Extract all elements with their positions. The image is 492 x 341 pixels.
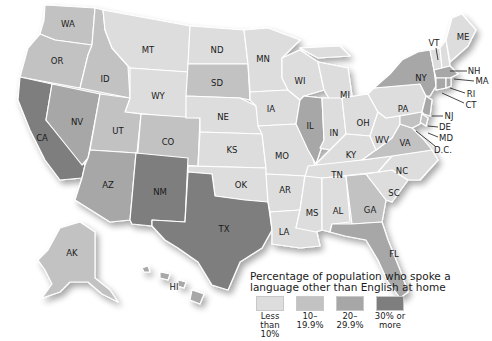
legend-label: 20– 29.9% (336, 312, 363, 330)
label-FL: FL (389, 249, 399, 259)
label-NH: NH (468, 66, 481, 76)
label-CT: CT (465, 100, 477, 110)
label-ID: ID (100, 74, 110, 84)
label-NJ: NJ (445, 111, 454, 121)
legend-swatch (336, 296, 364, 311)
label-LA: LA (279, 227, 290, 237)
legend-label: Less than 10% (250, 312, 290, 339)
label-WV: WV (375, 135, 389, 145)
legend-item-less-than-10: Less than 10% (250, 296, 290, 339)
label-CO: CO (162, 137, 175, 147)
label-KS: KS (227, 145, 238, 155)
label-NC: NC (396, 166, 408, 176)
label-OH: OH (356, 118, 369, 128)
label-GA: GA (364, 205, 377, 215)
state-CT (436, 78, 446, 90)
label-ME: ME (457, 32, 470, 42)
label-CA: CA (36, 133, 48, 143)
label-WY: WY (151, 91, 165, 101)
label-TX: TX (217, 224, 229, 234)
label-MS: MS (306, 208, 319, 218)
label-AL: AL (333, 206, 344, 216)
state-RI (446, 78, 451, 88)
label-VA: VA (399, 138, 410, 148)
label-TN: TN (330, 170, 343, 180)
label-NM: NM (153, 187, 167, 197)
label-SD: SD (211, 78, 223, 88)
legend-swatch (256, 296, 284, 311)
state-AK (38, 222, 118, 302)
leader-line-CT (442, 93, 464, 103)
label-OK: OK (235, 180, 248, 190)
leader-line-MD (428, 133, 438, 137)
label-WI: WI (295, 76, 306, 86)
label-NV: NV (71, 117, 83, 127)
legend-label: 30% or more (375, 312, 405, 330)
label-NY: NY (415, 73, 427, 83)
legend-swatch (376, 296, 404, 311)
label-AK: AK (66, 248, 78, 258)
label-MD: MD (439, 133, 453, 143)
legend-label: 10– 19.9% (296, 312, 323, 330)
legend-items: Less than 10% 10– 19.9% 20– 29.9% 30% or… (250, 296, 490, 339)
label-IL: IL (306, 121, 314, 131)
legend-item-30-plus: 30% or more (370, 296, 410, 339)
legend-item-20-29: 20– 29.9% (330, 296, 370, 339)
label-KY: KY (346, 150, 357, 160)
label-MA: MA (475, 76, 488, 86)
label-ND: ND (211, 45, 224, 55)
label-VT: VT (428, 38, 440, 48)
label-OR: OR (51, 56, 64, 66)
label-HI: HI (170, 282, 179, 292)
label-MI: MI (340, 90, 350, 100)
label-SC: SC (388, 188, 399, 198)
legend-swatch (296, 296, 324, 311)
label-AZ: AZ (102, 180, 114, 190)
label-WA: WA (61, 19, 75, 29)
label-MT: MT (142, 45, 155, 55)
label-PA: PA (398, 104, 409, 114)
leader-line-MA (454, 79, 474, 81)
leader-line-DE (428, 126, 438, 127)
legend-title: Percentage of population who spoke a lan… (250, 271, 490, 293)
leader-line-RI (450, 88, 465, 93)
legend-item-10-19: 10– 19.9% (290, 296, 330, 339)
label-AR: AR (279, 185, 291, 195)
label-DC: D.C. (434, 145, 452, 155)
label-RI: RI (467, 89, 475, 99)
label-IN: IN (330, 128, 339, 138)
map-legend: Percentage of population who spoke a lan… (250, 271, 490, 339)
label-UT: UT (112, 126, 124, 136)
label-MO: MO (275, 151, 289, 161)
label-DE: DE (439, 122, 451, 132)
label-MN: MN (256, 54, 270, 64)
label-NE: NE (217, 112, 229, 122)
label-IA: IA (267, 104, 276, 114)
